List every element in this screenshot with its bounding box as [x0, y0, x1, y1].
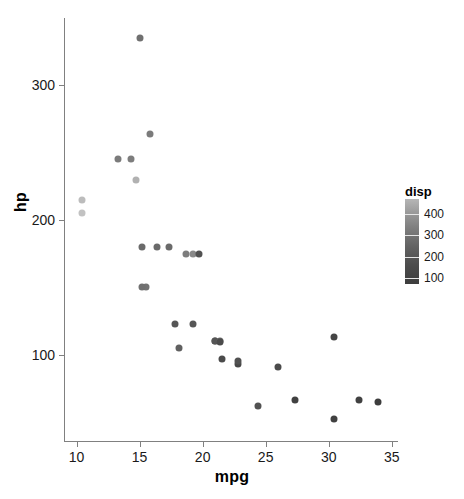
data-point [175, 344, 182, 351]
data-point [139, 284, 146, 291]
y-axis-tick-label: 300 [32, 78, 55, 92]
data-point [115, 156, 122, 163]
y-axis-line [64, 18, 65, 442]
x-axis-tick [77, 442, 78, 447]
data-point [136, 35, 143, 42]
x-axis-line [64, 441, 398, 442]
x-axis-tick [140, 442, 141, 447]
data-point [291, 397, 298, 404]
data-point [217, 339, 224, 346]
data-point [189, 320, 196, 327]
legend-tick [405, 257, 419, 258]
data-point [165, 243, 172, 250]
x-axis-tick-label: 35 [384, 450, 400, 464]
data-point [132, 176, 139, 183]
scatter-plot-figure: 100200300 101520253035 mpg hp disp 40030… [0, 0, 464, 499]
x-axis-tick-label: 10 [69, 450, 85, 464]
y-axis-tick [59, 355, 64, 356]
x-axis-tick [392, 442, 393, 447]
x-axis-tick-label: 30 [321, 450, 337, 464]
data-point [355, 397, 362, 404]
x-axis-tick [266, 442, 267, 447]
x-axis-tick [329, 442, 330, 447]
legend-tick [405, 235, 419, 236]
data-point [330, 334, 337, 341]
y-axis-title: hp [12, 192, 30, 212]
data-point [195, 250, 202, 257]
legend-tick-label: 200 [424, 251, 444, 263]
data-point [218, 355, 225, 362]
data-point [78, 196, 85, 203]
x-axis-tick [203, 442, 204, 447]
x-axis-tick-label: 25 [258, 450, 274, 464]
data-point [127, 156, 134, 163]
data-point [146, 130, 153, 137]
legend-colorbar [405, 199, 419, 284]
data-point [139, 243, 146, 250]
y-axis-tick [59, 220, 64, 221]
legend-tick [405, 214, 419, 215]
y-axis-tick [59, 85, 64, 86]
y-axis-tick-label: 100 [32, 348, 55, 362]
x-axis-tick-label: 15 [132, 450, 148, 464]
data-point [275, 363, 282, 370]
data-point [234, 358, 241, 365]
legend-tick [405, 278, 419, 279]
data-point [78, 210, 85, 217]
data-point [330, 416, 337, 423]
legend: disp 400300200100 [403, 184, 463, 289]
legend-tick-label: 300 [424, 229, 444, 241]
plot-panel [64, 18, 398, 442]
x-axis-tick-label: 20 [195, 450, 211, 464]
y-axis-tick-label: 200 [32, 213, 55, 227]
legend-tick-label: 100 [424, 272, 444, 284]
data-point [171, 320, 178, 327]
data-point [154, 243, 161, 250]
x-axis-title: mpg [0, 468, 464, 486]
legend-title: disp [405, 184, 432, 199]
data-point [255, 402, 262, 409]
legend-tick-label: 400 [424, 208, 444, 220]
data-point [374, 398, 381, 405]
